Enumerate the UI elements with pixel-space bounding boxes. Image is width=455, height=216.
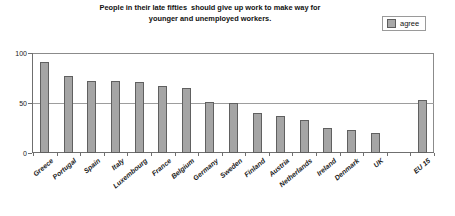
x-tick: [33, 153, 34, 156]
bar-belgium: [175, 53, 199, 153]
bar-portugal: [57, 53, 81, 153]
bar-eu-15: [410, 53, 434, 153]
bar-sweden: [222, 53, 246, 153]
y-axis-label-100: 100: [15, 50, 27, 57]
bar-greece: [33, 53, 57, 153]
bar-spain: [80, 53, 104, 153]
bar-luxembourg: [127, 53, 151, 153]
bar-rect: [111, 81, 120, 153]
bar-finland: [245, 53, 269, 153]
x-axis-labels: GreecePortugalSpainItalyLuxembourgFrance…: [33, 157, 443, 215]
bar-rect: [135, 82, 144, 153]
legend-swatch-agree: [387, 19, 396, 28]
chart-title-line-2: younger and unemployed workers.: [60, 13, 360, 24]
x-axis-label-text: Finland: [243, 157, 267, 178]
bar-uk: [363, 53, 387, 153]
x-axis-label-text: Spain: [82, 157, 101, 175]
x-axis-label-text: Italy: [110, 157, 125, 171]
x-tick: [410, 153, 411, 156]
bar-series-agree: [33, 53, 434, 153]
bar-empty: [387, 53, 411, 153]
y-axis-label-50: 50: [19, 100, 27, 107]
x-axis-label-text: Sweden: [218, 157, 243, 179]
bar-denmark: [340, 53, 364, 153]
chart-title-line-1: People in their late fifties should give…: [60, 2, 360, 13]
bar-rect: [40, 62, 49, 153]
chart-title: People in their late fifties should give…: [60, 2, 360, 24]
bar-rect: [418, 100, 427, 153]
bar-austria: [269, 53, 293, 153]
bar-netherlands: [292, 53, 316, 153]
x-axis-label-text: EU 15: [412, 157, 431, 175]
x-axis-label-text: UK: [372, 157, 384, 169]
chart-legend: agree: [382, 16, 426, 31]
bar-germany: [198, 53, 222, 153]
bar-italy: [104, 53, 128, 153]
y-axis-label-0: 0: [23, 150, 27, 157]
legend-label-agree: agree: [400, 19, 419, 28]
